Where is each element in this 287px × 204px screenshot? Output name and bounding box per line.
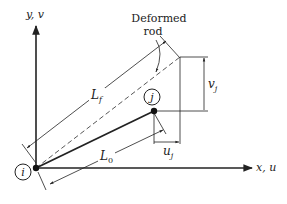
- node-i-point: [33, 165, 39, 171]
- vj-label: vj: [208, 77, 218, 93]
- rod-deformation-diagram: i j y, v x, u Deformed rod Lf L0 vj uj: [0, 0, 287, 204]
- node-i-label: i: [21, 166, 25, 179]
- undeformed-rod: [36, 111, 154, 168]
- deformed-rod-leader: [156, 40, 160, 72]
- deformed-rod-label-line1: Deformed: [131, 12, 186, 25]
- x-axis-label: x, u: [256, 161, 276, 174]
- L0-extension-left: [38, 172, 46, 190]
- node-j-point: [151, 108, 157, 114]
- L0-extension-right: [154, 113, 166, 134]
- uj-label: uj: [163, 144, 174, 160]
- Lf-extension-right: [160, 36, 180, 58]
- y-axis-label: y, v: [25, 8, 45, 21]
- deformed-rod-label-line2: rod: [144, 25, 163, 38]
